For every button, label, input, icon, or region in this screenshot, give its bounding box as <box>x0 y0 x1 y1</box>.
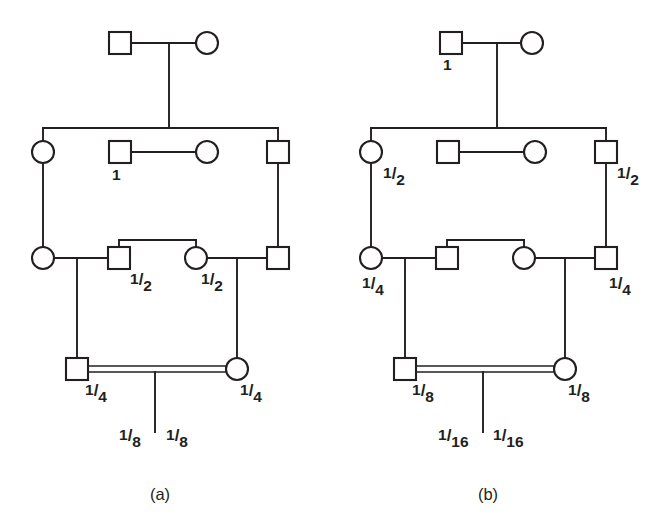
label-a-gen3-midleft-male-den: 2 <box>143 277 152 294</box>
label-b-gen3-right-male: 1/4 <box>609 274 631 298</box>
label-a-offspring-left-den: 8 <box>132 433 141 450</box>
svg-text:1/16: 1/16 <box>438 426 469 450</box>
label-b-gen4-male-den: 8 <box>425 388 434 405</box>
gen2-right-male-symbol-b <box>595 141 617 163</box>
label-b-offspring-left: 1/16 <box>438 426 469 450</box>
svg-text:1/16: 1/16 <box>493 426 524 450</box>
gen3-midleft-male-symbol-a <box>108 247 130 269</box>
gen1-male-symbol-a <box>109 32 131 54</box>
gen3-left-female-symbol-a <box>32 247 54 269</box>
gen4-male-symbol-a <box>66 358 88 380</box>
label-b-offspring-right: 1/16 <box>493 426 524 450</box>
gen2-mid-male-symbol-b <box>437 141 459 163</box>
svg-text:1/4: 1/4 <box>609 274 631 298</box>
gen2-right-male-symbol-a <box>267 141 289 163</box>
gen3-midright-female-symbol-b <box>513 247 535 269</box>
gen3-right-male-symbol-b <box>595 247 617 269</box>
svg-text:1/8: 1/8 <box>166 426 188 450</box>
gen2-mid-female-symbol-b <box>524 141 546 163</box>
gen4-male-symbol-b <box>394 358 416 380</box>
label-a-gen3-midleft-male: 1/2 <box>130 270 152 294</box>
gen2-left-female-symbol-b <box>360 141 382 163</box>
svg-text:1/2: 1/2 <box>201 270 223 294</box>
gen2-mid-male-symbol-a <box>109 141 131 163</box>
panel-a: (a) <box>32 32 289 503</box>
label-a-gen3-midright-female: 1/2 <box>201 270 223 294</box>
label-b-gen3-right-male-den: 4 <box>622 281 631 298</box>
svg-text:1/2: 1/2 <box>383 164 405 188</box>
label-b-gen4-female-den: 8 <box>581 388 590 405</box>
label-b-gen2-left-female-den: 2 <box>396 171 405 188</box>
pedigree-diagram-canvas: (a) <box>0 0 654 530</box>
gen2-left-female-symbol-a <box>32 141 54 163</box>
label-b-gen2-right-male: 1/2 <box>617 164 639 188</box>
panel-a-caption: (a) <box>150 485 170 503</box>
label-b-gen4-female: 1/8 <box>568 381 590 405</box>
label-b-offspring-right-den: 16 <box>506 433 524 450</box>
gen3-midleft-male-symbol-b <box>436 247 458 269</box>
label-b-gen1-male: 1 <box>443 56 452 73</box>
label-b-gen4-male: 1/8 <box>412 381 434 405</box>
gen4-female-symbol-b <box>554 358 576 380</box>
gen3-midright-female-symbol-a <box>185 247 207 269</box>
svg-text:1/2: 1/2 <box>130 270 152 294</box>
label-a-offspring-right: 1/8 <box>166 426 188 450</box>
label-a-gen2-mid-male: 1 <box>112 166 121 183</box>
label-a-offspring-right-den: 8 <box>179 433 188 450</box>
gen1-male-symbol-b <box>440 32 462 54</box>
pedigree-figure: (a) <box>0 0 654 530</box>
gen3-right-male-symbol-a <box>267 247 289 269</box>
label-b-gen2-right-male-den: 2 <box>630 171 639 188</box>
svg-text:1/8: 1/8 <box>568 381 590 405</box>
label-a-gen4-female-den: 4 <box>253 388 262 405</box>
gen4-female-symbol-a <box>226 358 248 380</box>
panel-b-caption: (b) <box>478 485 498 503</box>
svg-text:1/2: 1/2 <box>617 164 639 188</box>
gen1-female-symbol-b <box>521 32 543 54</box>
svg-text:1/4: 1/4 <box>240 381 262 405</box>
label-a-gen4-female: 1/4 <box>240 381 262 405</box>
gen1-female-symbol-a <box>196 32 218 54</box>
panel-b: (b) <box>360 32 617 503</box>
label-a-gen4-male: 1/4 <box>85 381 107 405</box>
svg-text:1/8: 1/8 <box>412 381 434 405</box>
label-a-gen4-male-den: 4 <box>98 388 107 405</box>
label-b-offspring-left-den: 16 <box>451 433 469 450</box>
label-b-gen3-left-female: 1/4 <box>362 274 384 298</box>
label-b-gen2-left-female: 1/2 <box>383 164 405 188</box>
label-b-gen3-left-female-den: 4 <box>375 281 384 298</box>
label-a-offspring-left: 1/8 <box>119 426 141 450</box>
label-a-gen3-midright-female-den: 2 <box>214 277 223 294</box>
svg-text:1/8: 1/8 <box>119 426 141 450</box>
gen2-mid-female-symbol-a <box>196 141 218 163</box>
gen3-left-female-symbol-b <box>360 247 382 269</box>
svg-text:1/4: 1/4 <box>85 381 107 405</box>
svg-text:1/4: 1/4 <box>362 274 384 298</box>
